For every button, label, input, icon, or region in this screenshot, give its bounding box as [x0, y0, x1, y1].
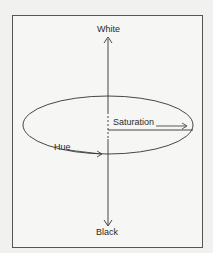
white-label: White [97, 25, 120, 34]
black-label: Black [96, 228, 118, 237]
hue-label: Hue [54, 143, 71, 152]
hsv-diagram [0, 0, 213, 253]
saturation-label: Saturation [113, 118, 154, 127]
